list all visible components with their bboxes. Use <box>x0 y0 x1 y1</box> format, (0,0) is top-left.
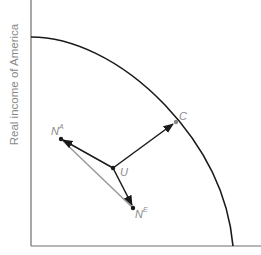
point-c <box>174 120 178 124</box>
label-ne-base: N <box>135 208 143 220</box>
label-na: NA <box>51 124 64 137</box>
label-ne: NE <box>135 207 148 220</box>
label-c: C <box>179 110 187 122</box>
label-ne-sup: E <box>143 206 148 213</box>
arrow-u-to-na <box>63 140 113 168</box>
label-na-base: N <box>51 125 59 137</box>
label-na-sup: A <box>59 123 64 130</box>
frontier-curve <box>31 37 233 246</box>
point-u <box>111 166 115 170</box>
diagram-canvas <box>0 0 261 255</box>
arrow-u-to-c <box>113 124 173 168</box>
y-axis-label: Real income of America <box>4 0 24 212</box>
label-u: U <box>120 166 128 178</box>
point-na <box>59 137 63 141</box>
